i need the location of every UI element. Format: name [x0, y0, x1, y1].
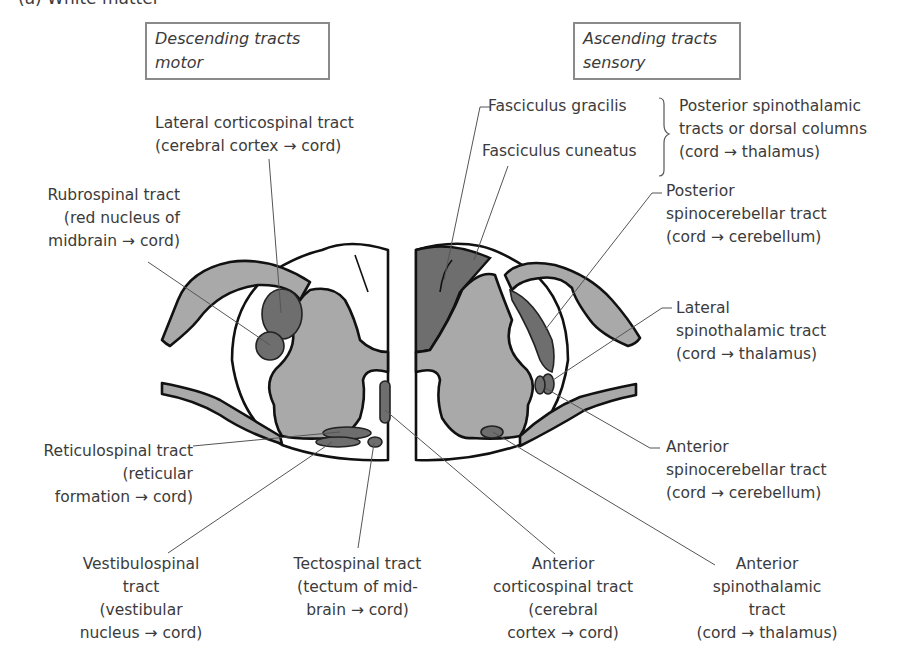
- label-reticulospinal-tract: Reticulospinal tract (reticular formatio…: [5, 440, 193, 509]
- label-anterior-spinothalamic-tract: Anterior spinothalamic tract (cord → tha…: [672, 553, 862, 645]
- label-rubrospinal-tract: Rubrospinal tract (red nucleus of midbra…: [22, 184, 180, 253]
- label-anterior-corticospinal-tract: Anterior corticospinal tract (cerebral c…: [478, 553, 648, 645]
- tectospinal-tract-shape: [368, 437, 382, 447]
- label-fasciculus-cuneatus: Fasciculus cuneatus: [482, 140, 637, 163]
- left-half-cord: [162, 244, 390, 460]
- vestibulospinal-tract-shape: [316, 437, 360, 447]
- label-lateral-spinothalamic-tract: Lateral spinothalamic tract (cord → thal…: [676, 297, 826, 366]
- anterior-corticospinal-tract: [380, 381, 390, 423]
- label-fasciculus-gracilis: Fasciculus gracilis: [488, 95, 627, 118]
- rubrospinal-tract: [256, 332, 284, 360]
- anterior-spinocerebellar-tract-shape: [535, 376, 545, 394]
- label-anterior-spinocerebellar-tract: Anterior spinocerebellar tract (cord → c…: [666, 436, 827, 505]
- label-tectospinal-tract: Tectospinal tract (tectum of mid- brain …: [280, 553, 435, 622]
- label-posterior-spinothalamic-tracts: Posterior spinothalamic tracts or dorsal…: [679, 95, 867, 164]
- label-vestibulospinal-tract: Vestibulospinal tract (vestibular nucleu…: [70, 553, 212, 645]
- label-posterior-spinocerebellar-tract: Posterior spinocerebellar tract (cord → …: [666, 180, 827, 249]
- right-half-cord: [416, 244, 640, 460]
- label-lateral-corticospinal-tract: Lateral corticospinal tract (cerebral co…: [155, 112, 354, 158]
